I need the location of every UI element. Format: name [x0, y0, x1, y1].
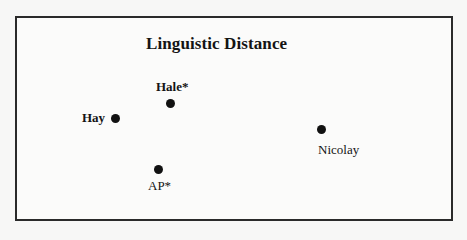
- chart-title: Linguistic Distance: [146, 34, 287, 54]
- point-label-hay: Hay: [82, 111, 105, 125]
- point-label-nicolay: Nicolay: [318, 143, 359, 157]
- point-label-ap: AP*: [148, 179, 171, 193]
- data-point-nicolay: [317, 125, 326, 134]
- data-point-hale: [166, 99, 175, 108]
- data-point-hay: [111, 114, 120, 123]
- point-label-hale: Hale*: [156, 80, 189, 94]
- data-point-ap: [154, 165, 163, 174]
